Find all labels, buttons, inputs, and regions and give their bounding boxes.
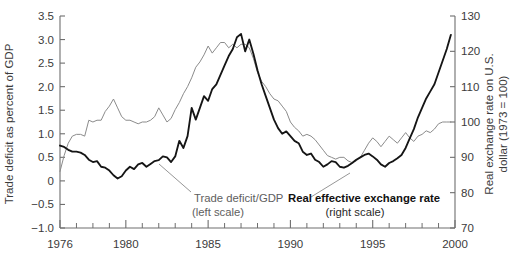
left-ticklabel-neg0.5: −0.5 bbox=[31, 198, 54, 210]
x-ticklabel-1980: 1980 bbox=[113, 238, 139, 250]
right-ticklabel-100: 100 bbox=[461, 116, 480, 128]
chart-figure: Trade deficit as percent of GDP Real exc… bbox=[0, 0, 522, 269]
left-axis-title-text: Trade deficit as percent of GDP bbox=[3, 43, 15, 204]
right-ticklabel-80: 80 bbox=[461, 187, 474, 199]
left-ticklabel-neg1.0: −1.0 bbox=[31, 222, 54, 234]
left-axis-title: Trade deficit as percent of GDP bbox=[3, 43, 15, 204]
right-ticklabel-130: 130 bbox=[461, 10, 480, 22]
x-ticklabel-2000: 2000 bbox=[442, 238, 468, 250]
x-axis-ticks bbox=[60, 220, 455, 228]
right-ticklabel-90: 90 bbox=[461, 151, 474, 163]
left-ticklabel-0.5: 0.5 bbox=[38, 151, 54, 163]
x-ticklabel-1995: 1995 bbox=[360, 238, 386, 250]
annotation-trade-deficit-label: Trade deficit/GDP bbox=[194, 192, 283, 204]
annotation-trade-deficit-sublabel: (left scale) bbox=[192, 206, 244, 218]
x-ticklabel-1976: 1976 bbox=[47, 238, 73, 250]
line-chart-svg: Trade deficit as percent of GDP Real exc… bbox=[0, 0, 522, 269]
annotation-exchange-rate-label: Real effective exchange rate bbox=[288, 192, 440, 204]
left-ticklabel-1.0: 1.0 bbox=[38, 128, 54, 140]
left-ticklabel-3.5: 3.5 bbox=[38, 10, 54, 22]
leader-line-trade-deficit bbox=[159, 164, 191, 192]
annotation-exchange-rate-sublabel: (right scale) bbox=[325, 206, 384, 218]
right-axis-title-line1: Real exchange rate on U.S. bbox=[483, 53, 495, 194]
left-ticklabel-1.5: 1.5 bbox=[38, 104, 54, 116]
series-group bbox=[60, 34, 451, 179]
left-ticklabel-2.0: 2.0 bbox=[38, 81, 54, 93]
right-ticklabel-110: 110 bbox=[461, 81, 479, 93]
x-axis-ticklabels: 197619801985199019952000 bbox=[47, 238, 468, 250]
left-ticklabel-0: 0 bbox=[48, 175, 54, 187]
x-ticklabel-1990: 1990 bbox=[278, 238, 304, 250]
right-axis-title-line2: dollar (1973 = 100) bbox=[497, 75, 509, 172]
series-trade-deficit-gdp bbox=[60, 34, 451, 179]
x-ticklabel-1985: 1985 bbox=[195, 238, 221, 250]
annotation-trade-deficit: Trade deficit/GDP (left scale) bbox=[159, 164, 283, 218]
right-axis-title: Real exchange rate on U.S. dollar (1973 … bbox=[483, 53, 509, 194]
right-ticklabel-70: 70 bbox=[461, 222, 474, 234]
right-ticklabel-120: 120 bbox=[461, 45, 480, 57]
left-ticklabel-3.0: 3.0 bbox=[38, 34, 54, 46]
annotation-exchange-rate: Real effective exchange rate (right scal… bbox=[288, 173, 440, 218]
left-ticklabel-2.5: 2.5 bbox=[38, 57, 54, 69]
